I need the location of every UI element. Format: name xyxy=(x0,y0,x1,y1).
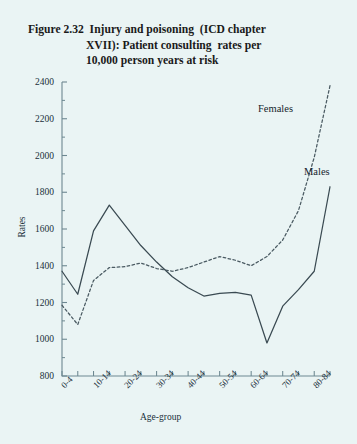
line-chart: Rates Age-group Females Males 8001000120… xyxy=(0,0,357,444)
y-tick-label: 1000 xyxy=(22,334,54,344)
y-tick-label: 2200 xyxy=(22,114,54,124)
y-tick-label: 1800 xyxy=(22,187,54,197)
series-label-females: Females xyxy=(258,103,293,114)
y-tick-label: 2000 xyxy=(22,151,54,161)
figure-page: Figure 2.32 Injury and poisoning (ICD ch… xyxy=(0,0,357,444)
y-tick-label: 1200 xyxy=(22,298,54,308)
y-tick-label: 1600 xyxy=(22,224,54,234)
series-line-females xyxy=(62,86,330,325)
axis-frame xyxy=(62,82,330,376)
y-tick-label: 2400 xyxy=(22,77,54,87)
x-axis-label: Age-group xyxy=(140,412,181,422)
y-tick-label: 1400 xyxy=(22,261,54,271)
series-label-males: Males xyxy=(304,166,330,177)
y-tick-label: 800 xyxy=(22,371,54,381)
